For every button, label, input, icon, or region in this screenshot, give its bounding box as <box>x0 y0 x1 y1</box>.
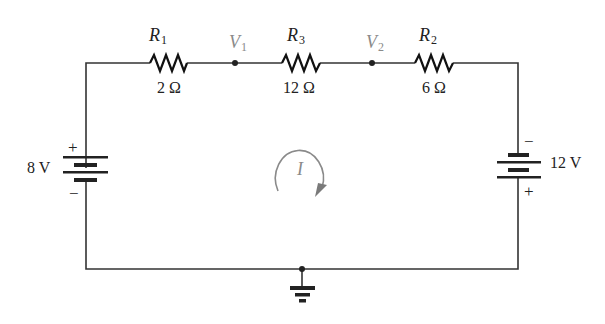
v1-subscript: 1 <box>241 40 247 54</box>
node-v2-label: V2 <box>366 33 384 53</box>
node-v1-dot <box>232 60 238 66</box>
battery-12v-minus-sign: − <box>524 133 534 150</box>
node-v1-label: V1 <box>229 33 247 53</box>
battery-8v-plus-sign: + <box>68 139 78 156</box>
resistor-r1-value: 2 Ω <box>157 80 181 96</box>
loop-current-label: I <box>297 160 303 178</box>
battery-12v-plus-sign: + <box>524 183 534 200</box>
r2-symbol: R <box>419 25 430 45</box>
resistor-r3-label: R3 <box>287 26 305 46</box>
v2-symbol: V <box>366 32 377 52</box>
resistor-r3-symbol <box>282 55 320 71</box>
resistor-r2-symbol <box>415 55 453 71</box>
resistor-r2-value: 6 Ω <box>422 80 446 96</box>
battery-12v-symbol <box>497 153 541 179</box>
resistor-r2-label: R2 <box>419 26 437 46</box>
v1-symbol: V <box>229 32 240 52</box>
r1-symbol: R <box>149 25 160 45</box>
battery-8v-value: 8 V <box>27 160 50 176</box>
node-v2-dot <box>369 60 375 66</box>
resistor-r1-label: R1 <box>149 26 167 46</box>
r3-subscript: 3 <box>299 33 305 47</box>
resistor-r3-value: 12 Ω <box>283 80 315 96</box>
ground-node-dot <box>299 266 305 272</box>
ground-icon <box>290 286 315 303</box>
resistor-r1-symbol <box>150 55 187 71</box>
v2-subscript: 2 <box>378 40 384 54</box>
battery-12v-value: 12 V <box>550 155 581 171</box>
r3-symbol: R <box>287 25 298 45</box>
r2-subscript: 2 <box>431 33 437 47</box>
battery-8v-minus-sign: − <box>69 185 79 202</box>
r1-subscript: 1 <box>161 33 167 47</box>
